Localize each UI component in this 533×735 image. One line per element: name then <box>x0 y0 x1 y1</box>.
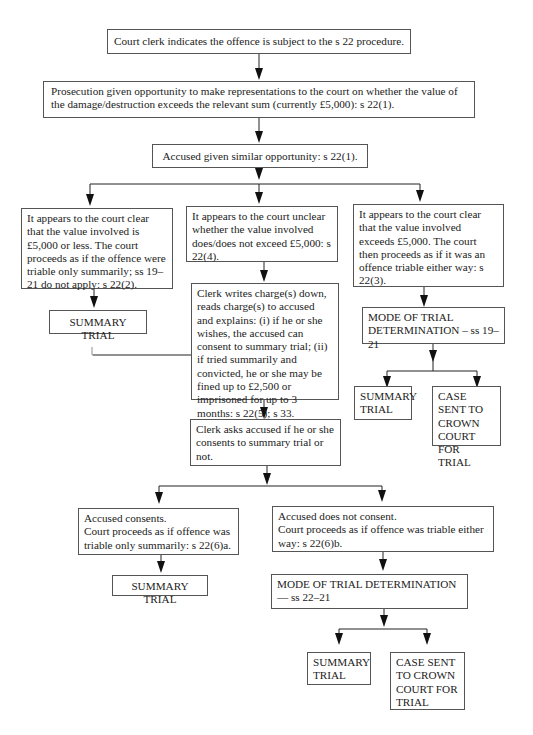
left-summary-trial-box: SUMMARY TRIAL <box>49 310 147 334</box>
branch-middle-box: It appears to the court unclear whether … <box>186 206 338 262</box>
accused-opportunity-box: Accused given similar opportunity: s 22(… <box>152 144 368 168</box>
right-mode-of-trial-box: MODE OF TRIAL DETERMINATION – ss 19–21 <box>362 307 505 344</box>
consents-box: Accused consents. Court proceeds as if o… <box>78 508 239 555</box>
not-consent-box: Accused does not consent. Court proceeds… <box>272 506 494 552</box>
branch-right-box: It appears to the court clear that the v… <box>353 204 504 287</box>
consent-summary-trial-box: SUMMARY TRIAL <box>112 575 208 596</box>
branch-left-box: It appears to the court clear that the v… <box>21 208 173 289</box>
clerk-asks-box: Clerk asks accused if he or she consents… <box>190 419 341 466</box>
arrow-down-icon <box>429 350 437 362</box>
bottom-crown-court-box: CASE SENT TO CROWN COURT FOR TRIAL <box>390 652 465 710</box>
bottom-summary-trial-box: SUMMARY TRIAL <box>307 652 371 685</box>
right-summary-trial-box: SUMMARY TRIAL <box>354 386 412 420</box>
bottom-mode-of-trial-box: MODE OF TRIAL DETERMINATION — ss 22–21 <box>271 574 468 609</box>
clerk-writes-box: Clerk writes charge(s) down, reads charg… <box>191 283 339 400</box>
right-crown-court-box: CASE SENT TO CROWN COURT FOR TRIAL <box>432 386 501 446</box>
prosecution-box: Prosecution given opportunity to make re… <box>43 81 475 118</box>
start-box: Court clerk indicates the offence is sub… <box>107 29 411 54</box>
